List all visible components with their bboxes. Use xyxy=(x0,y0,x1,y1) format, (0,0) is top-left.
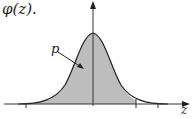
axis-label: z xyxy=(181,103,187,117)
region-label: p xyxy=(51,41,59,56)
normal-curve-diagram xyxy=(0,0,195,119)
shaded-region xyxy=(18,33,136,104)
vertical-arrow-icon xyxy=(90,1,96,9)
